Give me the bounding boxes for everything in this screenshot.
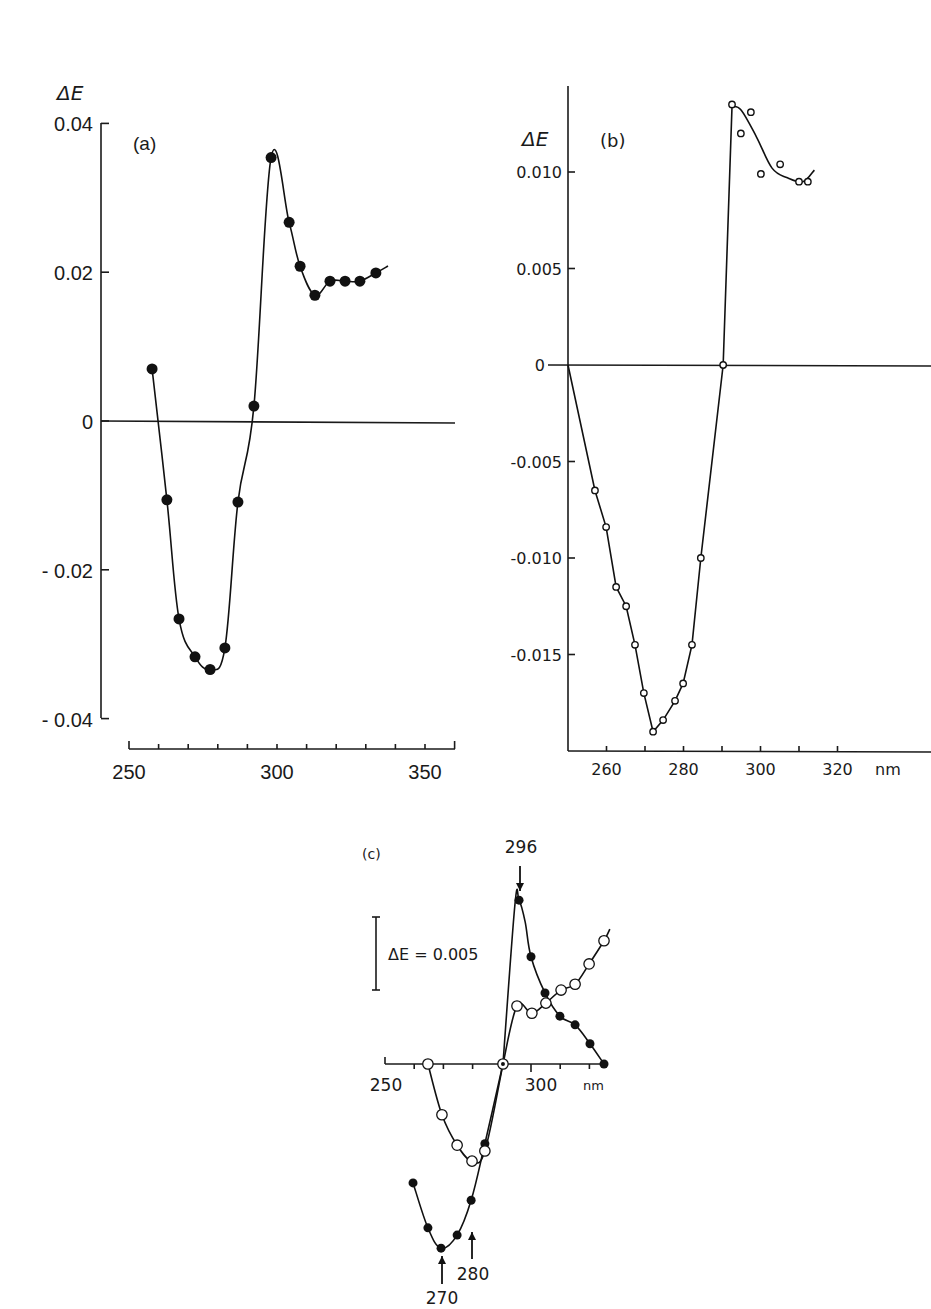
data-point-open — [584, 959, 594, 969]
chart-c-scale-label: ΔE = 0.005 — [388, 945, 478, 964]
chart-c-curves — [413, 889, 610, 1248]
data-point-open — [423, 1059, 433, 1069]
y-tick-label: 0.010 — [516, 163, 562, 182]
data-point — [592, 487, 598, 493]
data-point — [161, 494, 172, 505]
y-tick-label: 0 — [82, 411, 93, 433]
y-tick-label: 0.02 — [54, 262, 93, 284]
y-tick-label: - 0.04 — [42, 709, 93, 731]
data-point — [147, 363, 158, 374]
data-point — [680, 680, 686, 686]
chart-c-panel-label: (c) — [362, 846, 381, 862]
data-point — [748, 109, 754, 115]
data-point-filled — [585, 1039, 594, 1048]
data-point-filled — [453, 1231, 462, 1240]
x-tick-label: 300 — [260, 761, 293, 783]
x-tick-label: 250 — [370, 1075, 402, 1095]
data-point-filled — [571, 1020, 580, 1029]
data-point-filled — [501, 1062, 505, 1066]
y-tick-label: -0.010 — [510, 549, 562, 568]
data-point — [232, 497, 243, 508]
data-point — [190, 651, 201, 662]
x-tick-label: 350 — [408, 761, 441, 783]
data-point-filled — [409, 1178, 418, 1187]
chart-b-ylabel: ΔE — [520, 127, 549, 151]
data-point — [758, 171, 764, 177]
data-point-open — [599, 936, 609, 946]
data-point — [266, 152, 277, 163]
data-point — [650, 729, 656, 735]
data-point-open — [467, 1156, 477, 1166]
chart-c-min2-label: 280 — [457, 1264, 489, 1284]
data-point — [324, 276, 335, 287]
data-point — [623, 603, 629, 609]
y-tick-label: 0 — [535, 356, 545, 375]
data-point — [632, 642, 638, 648]
data-point — [219, 642, 230, 653]
data-point-filled — [467, 1196, 476, 1205]
data-point-open — [541, 998, 551, 1008]
data-point — [720, 362, 726, 368]
chart-b-panel-label: (b) — [600, 130, 625, 151]
data-point-open — [512, 1001, 522, 1011]
chart-c-xunit: nm — [583, 1078, 604, 1093]
y-tick-label: 0.04 — [54, 113, 93, 135]
data-point — [174, 613, 185, 624]
x-tick-label: 260 — [591, 760, 622, 779]
data-point — [698, 555, 704, 561]
data-point — [354, 276, 365, 287]
data-point-filled — [515, 896, 524, 905]
chart-b-curve — [568, 106, 814, 731]
data-point-open — [527, 1008, 537, 1018]
chart-a: 0.040.020- 0.02- 0.04250300350 ΔE (a) — [42, 81, 455, 783]
chart-b-axes: 0.0100.0050-0.005-0.010-0.01526028030032… — [510, 86, 931, 779]
data-point — [672, 698, 678, 704]
arrow-up-icon-head — [468, 1232, 476, 1240]
data-point-filled — [423, 1223, 432, 1232]
fitted-curve-lower — [568, 365, 723, 732]
x-tick-label: 320 — [822, 760, 853, 779]
data-point-filled — [541, 988, 550, 997]
data-point-open — [437, 1110, 447, 1120]
x-tick-label: 300 — [525, 1075, 557, 1095]
zero-line — [548, 365, 931, 366]
figure-canvas: 0.040.020- 0.02- 0.04250300350 ΔE (a) 0.… — [0, 0, 931, 1309]
filled-series-curve-lower — [413, 1064, 503, 1248]
fitted-curve — [152, 150, 388, 670]
x-axis — [568, 751, 931, 752]
data-point — [603, 524, 609, 530]
data-point-filled — [437, 1244, 446, 1253]
data-point — [370, 267, 381, 278]
data-point-filled — [600, 1060, 609, 1069]
data-point-filled — [527, 952, 536, 961]
chart-c-axes: 250300 — [370, 917, 603, 1095]
data-point-open — [570, 979, 580, 989]
y-tick-label: - 0.02 — [42, 560, 93, 582]
data-point — [284, 217, 295, 228]
data-point — [248, 401, 259, 412]
chart-a-panel-label: (a) — [133, 133, 156, 154]
chart-a-curve — [152, 150, 388, 670]
chart-c-peak-label: 296 — [505, 837, 537, 857]
chart-c-arrow-icons — [438, 866, 524, 1284]
data-point — [205, 664, 216, 675]
chart-b: 0.0100.0050-0.005-0.010-0.01526028030032… — [510, 86, 931, 779]
x-tick-label: 280 — [668, 760, 699, 779]
data-point-open — [452, 1140, 462, 1150]
chart-c: 250300 (c) ΔE = 0.005 nm 296 270 280 — [362, 837, 610, 1308]
y-tick-label: -0.005 — [510, 453, 562, 472]
x-tick-label: 300 — [745, 760, 776, 779]
y-tick-label: 0.005 — [516, 260, 562, 279]
data-point — [613, 584, 619, 590]
figure: 0.040.020- 0.02- 0.04250300350 ΔE (a) 0.… — [0, 0, 931, 1309]
data-point — [777, 161, 783, 167]
chart-a-points — [147, 152, 382, 675]
data-point-filled — [555, 1012, 564, 1021]
data-point-open — [480, 1146, 490, 1156]
chart-b-xunit: nm — [875, 760, 901, 779]
data-point — [660, 717, 666, 723]
data-point — [805, 178, 811, 184]
data-point — [729, 101, 735, 107]
data-point — [796, 178, 802, 184]
arrow-up-icon-head — [438, 1256, 446, 1264]
